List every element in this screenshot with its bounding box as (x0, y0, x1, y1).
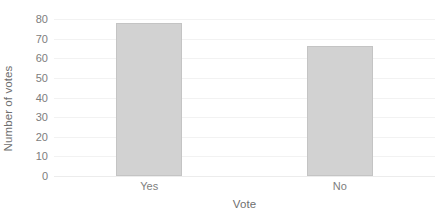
gridline (54, 98, 435, 99)
gridline (54, 117, 435, 118)
y-axis-tick-label: 50 (36, 72, 48, 84)
gridline (54, 78, 435, 79)
y-axis-tick-label: 40 (36, 92, 48, 104)
bar-yes (116, 23, 182, 176)
y-axis-tick-labels: 80706050403020100 (22, 12, 48, 178)
y-axis-title: Number of votes (0, 0, 16, 217)
gridline (54, 156, 435, 157)
y-axis-tick-label: 60 (36, 52, 48, 64)
y-axis-tick-label: 0 (42, 170, 48, 182)
y-axis-tick-label: 30 (36, 111, 48, 123)
axis-baseline (54, 176, 435, 177)
x-axis-tick-label: Yes (140, 180, 158, 192)
bar-chart: Number of votes 80706050403020100 YesNo … (0, 0, 439, 217)
gridline (54, 19, 435, 20)
x-axis-title: Vote (54, 198, 435, 210)
gridline (54, 39, 435, 40)
bar-no (307, 46, 373, 176)
gridline (54, 58, 435, 59)
gridline (54, 137, 435, 138)
x-axis-tick-label: No (333, 180, 347, 192)
y-axis-tick-label: 80 (36, 13, 48, 25)
x-axis-tick-labels: YesNo (54, 180, 435, 196)
y-axis-tick-label: 20 (36, 131, 48, 143)
y-axis-tick-label: 10 (36, 150, 48, 162)
plot-area (54, 19, 435, 176)
y-axis-tick-label: 70 (36, 33, 48, 45)
